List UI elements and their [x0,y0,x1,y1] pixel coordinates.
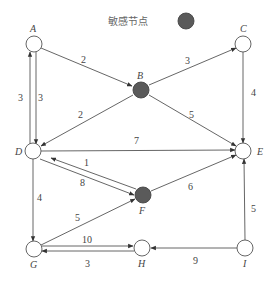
weight-D-A: 3 [18,92,23,103]
figure-caption-clipped [0,280,277,286]
node-E [235,143,251,159]
weight-G-H: 10 [82,234,92,245]
weight-C-E: 4 [251,87,256,98]
edge-F-E [151,155,236,191]
node-I [237,240,253,256]
node-label-A: A [29,23,37,34]
weight-B-C: 3 [185,55,190,66]
node-F [135,187,151,203]
edge-F-D [51,158,136,189]
weight-I-H: 9 [193,255,198,266]
nodes: A B C D E F G H I [14,23,263,270]
node-D [25,143,41,159]
node-B [133,82,149,98]
edge-B-E [149,95,236,146]
node-label-E: E [256,146,263,157]
weight-H-G: 3 [85,258,90,269]
legend-label: 敏感节点 [108,15,148,27]
edge-A-B [41,48,132,86]
node-H [134,240,150,256]
node-A [26,36,42,52]
legend: 敏感节点 [108,13,194,29]
node-G [26,241,42,257]
weight-A-B: 2 [81,54,86,65]
node-label-D: D [14,146,23,157]
edges: 2 3 3 3 2 5 4 7 1 8 6 4 5 [18,48,256,269]
edge-D-E [41,150,235,151]
weight-B-D: 2 [78,109,83,120]
weight-D-G: 4 [37,192,42,203]
network-diagram: 敏感节点 2 3 3 3 2 5 4 7 1 8 6 [0,0,277,286]
edge-B-D [41,95,133,146]
edge-I-E [244,159,245,240]
node-label-H: H [137,258,146,269]
weight-D-E: 7 [134,135,139,146]
node-label-B: B [137,70,143,81]
weight-F-D: 1 [84,157,89,168]
edge-B-C [149,48,236,85]
node-label-F: F [138,205,146,216]
weight-F-E: 6 [188,181,193,192]
node-C [235,36,251,52]
weight-I-E: 5 [251,203,256,214]
weight-G-F: 5 [75,212,80,223]
node-label-C: C [240,23,247,34]
node-label-G: G [30,259,37,270]
node-label-I: I [242,258,247,269]
weight-D-F: 8 [80,177,85,188]
weight-A-D: 3 [38,92,43,103]
legend-sensitive-node-icon [178,13,194,29]
weight-B-E: 5 [189,109,194,120]
